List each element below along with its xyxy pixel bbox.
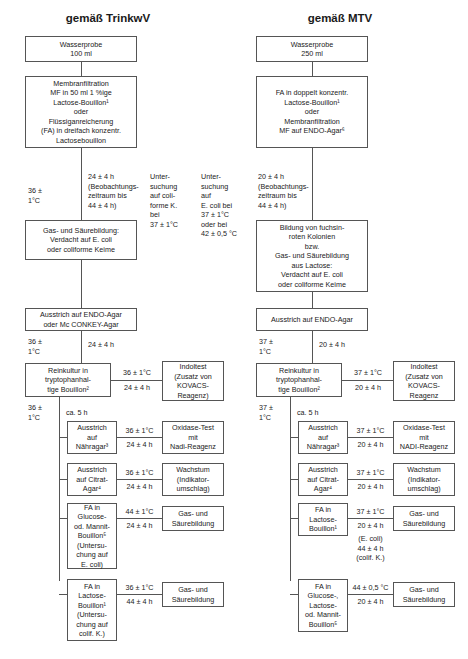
right-test-extra-2: (E. coli) 44 ± 4 h (colif. K.) <box>348 534 393 563</box>
right-test-link-3 <box>348 594 393 595</box>
left-test-box-0: Ausstrich auf Nähragar³ <box>67 421 117 454</box>
left-test-result-2: Gas- und Säurebildung <box>162 506 224 531</box>
left-pureculture-box: Reinkultur in tryptophanhal- tige Bouill… <box>25 363 111 397</box>
right-indol-time: 20 ± 4 h <box>343 383 393 393</box>
right-incubation2-time: 20 ± 4 h <box>319 340 379 350</box>
right-enrichment-box: FA in doppelt konzentr. Lactose-Bouillon… <box>256 76 368 148</box>
left-indol-temp: 36 ± 1°C <box>112 368 162 378</box>
right-test-result-text-1: Wachstum (Indikator- umschlag) <box>396 465 452 494</box>
right-test-temp-3: 44 ± 0,5 °C <box>348 583 393 593</box>
left-test-time-3: 44 ± 4 h <box>117 597 162 607</box>
left-test-result-text-0: Oxidase-Test mit Nadi-Reagenz <box>165 423 221 452</box>
left-test-branch-3 <box>59 594 67 595</box>
left-test-name-3: FA in Lactose- Bouillon¹ (Untersu- chung… <box>70 582 114 639</box>
left-incubation1-temp: 36 ± 1°C <box>28 186 68 205</box>
left-connector-pureculture-indol <box>111 380 162 381</box>
right-test-time-0: 20 ± 4 h <box>348 440 393 450</box>
left-test-temp-1: 36 ± 1°C <box>117 468 162 478</box>
left-test-temp-3: 36 ± 1°C <box>117 583 162 593</box>
right-connector-pureculture-indol <box>342 380 393 381</box>
right-test-result-2: Gas- und Säurebildung <box>393 506 455 531</box>
right-test-link-1 <box>348 479 393 480</box>
right-test-branch-3 <box>290 594 298 595</box>
left-sample-text: Wasserprobe 100 ml <box>28 40 134 59</box>
column-title-left: gemäß TrinkwV <box>18 12 198 24</box>
left-incubation2-time: 24 ± 4 h <box>88 340 148 350</box>
right-indol-temp: 37 ± 1°C <box>343 368 393 378</box>
left-indol-time: 24 ± 4 h <box>112 383 162 393</box>
right-test-box-1: Ausstrich auf Citrat- Agar⁴ <box>298 463 348 496</box>
left-indol-text: Indoltest (Zusatz von KOVACS- Reagenz) <box>165 362 221 400</box>
right-test-time-3: 20 ± 4 h <box>348 597 393 607</box>
right-incubation3-time: ca. 5 h <box>297 408 347 418</box>
left-incubation3-time: ca. 5 h <box>66 408 116 418</box>
left-pureculture-text: Reinkultur in tryptophanhal- tige Bouill… <box>28 366 108 395</box>
right-test-result-text-0: Oxidase-Test mit NADI-Reagenz <box>396 423 452 452</box>
left-test-name-0: Ausstrich auf Nähragar³ <box>70 423 114 452</box>
left-test-link-0 <box>117 437 162 438</box>
right-enrichment-text: FA in doppelt konzentr. Lactose-Bouillon… <box>259 88 365 136</box>
right-test-name-0: Ausstrich auf Nähragar³ <box>301 423 345 452</box>
right-plating-text: Ausstrich auf ENDO-Agar <box>259 315 365 325</box>
right-test-spine <box>290 397 291 581</box>
right-plating-box: Ausstrich auf ENDO-Agar <box>256 308 368 331</box>
right-test-time-1: 20 ± 4 h <box>348 482 393 492</box>
right-incubation1-time: 20 ± 4 h (Beobachtungs- zeitraum bis 44 … <box>258 172 338 210</box>
right-pureculture-text: Reinkultur in tryptophanhal- tige Bouill… <box>259 366 339 395</box>
right-connector-plating-pureculture <box>312 331 313 363</box>
right-presumptive-text: Bildung von fuchsin- roten Kolonien bzw.… <box>259 223 365 290</box>
left-test-spine <box>59 397 60 581</box>
left-incubation3-temp: 36 ± 1°C <box>28 403 68 422</box>
right-test-name-3: FA in Glucose-, Lactose- od. Mannit- Bou… <box>301 582 345 630</box>
right-test-result-text-3: Gas- und Säurebildung <box>396 585 452 604</box>
right-test-box-2: FA in Lactose- Bouillon¹ <box>298 503 348 536</box>
right-incubation2-temp: 37 ± 1°C <box>259 337 299 356</box>
left-test-result-text-3: Gas- und Säurebildung <box>165 585 221 604</box>
left-test-name-1: Ausstrich auf Citrat- Agar⁴ <box>70 465 114 494</box>
right-test-branch-2 <box>290 518 298 519</box>
right-test-name-2: FA in Lactose- Bouillon¹ <box>301 505 345 534</box>
left-test-result-text-2: Gas- und Säurebildung <box>165 509 221 528</box>
right-incubation3-temp: 37 ± 1°C <box>259 403 299 422</box>
right-pureculture-box: Reinkultur in tryptophanhal- tige Bouill… <box>256 363 342 397</box>
right-test-branch-1 <box>290 479 298 480</box>
left-incubation2-temp: 36 ± 1°C <box>28 337 68 356</box>
left-test-time-1: 24 ± 4 h <box>117 482 162 492</box>
left-enrichment-box: Membranfiltration MF in 50 ml 1 %ige Lac… <box>25 76 137 148</box>
left-test-box-3: FA in Lactose- Bouillon¹ (Untersu- chung… <box>67 579 117 641</box>
left-test-time-0: 24 ± 4 h <box>117 440 162 450</box>
right-test-link-2 <box>348 518 393 519</box>
left-test-temp-2: 44 ± 1°C <box>117 507 162 517</box>
left-connector-plating-pureculture <box>81 331 82 363</box>
right-test-result-text-2: Gas- und Säurebildung <box>396 509 452 528</box>
right-sample-text: Wasserprobe 250 ml <box>259 40 365 59</box>
right-connector-presumptive-plating <box>312 292 313 308</box>
right-test-branch-0 <box>290 437 298 438</box>
left-test-result-text-1: Wachstum (Indikator- umschlag) <box>165 465 221 494</box>
left-test-temp-0: 36 ± 1°C <box>117 426 162 436</box>
left-test-link-1 <box>117 479 162 480</box>
right-test-temp-2: 37 ± 1°C <box>348 507 393 517</box>
left-test-result-1: Wachstum (Indikator- umschlag) <box>162 463 224 496</box>
left-test-box-1: Ausstrich auf Citrat- Agar⁴ <box>67 463 117 496</box>
right-indol-box: Indoltest (Zusatz von KOVACS- Reagenz <box>393 361 455 401</box>
left-test-branch-0 <box>59 437 67 438</box>
right-test-box-0: Ausstrich auf Nähragar³ <box>298 421 348 454</box>
right-test-box-3: FA in Glucose-, Lactose- od. Mannit- Bou… <box>298 579 348 632</box>
right-test-temp-0: 37 ± 1°C <box>348 426 393 436</box>
left-plating-box: Ausstrich auf ENDO-Agar oder Mc CONKEY-A… <box>25 308 137 331</box>
right-connector-sample-enrichment <box>312 62 313 76</box>
right-test-link-0 <box>348 437 393 438</box>
left-connector-enrichment-presumptive <box>81 148 82 220</box>
left-plating-text: Ausstrich auf ENDO-Agar oder Mc CONKEY-A… <box>28 310 134 329</box>
note-coliform-investigation: Unter- suchung auf coli- forme K. bei 37… <box>150 172 198 229</box>
note-ecoli-investigation: Unter- suchung auf E. coli bei 37 ± 1°C … <box>201 172 253 239</box>
right-test-result-1: Wachstum (Indikator- umschlag) <box>393 463 455 496</box>
right-indol-text: Indoltest (Zusatz von KOVACS- Reagenz <box>396 362 452 400</box>
left-connector-presumptive-plating <box>81 260 82 308</box>
flowchart-diagram: gemäß TrinkwV gemäß MTV Wasserprobe 100 … <box>0 0 468 659</box>
left-indol-box: Indoltest (Zusatz von KOVACS- Reagenz) <box>162 361 224 401</box>
left-test-name-2: FA in Glucose- od. Mannit- Bouillon⁵ (Un… <box>70 503 114 570</box>
left-test-link-3 <box>117 594 162 595</box>
right-test-name-1: Ausstrich auf Citrat- Agar⁴ <box>301 465 345 494</box>
